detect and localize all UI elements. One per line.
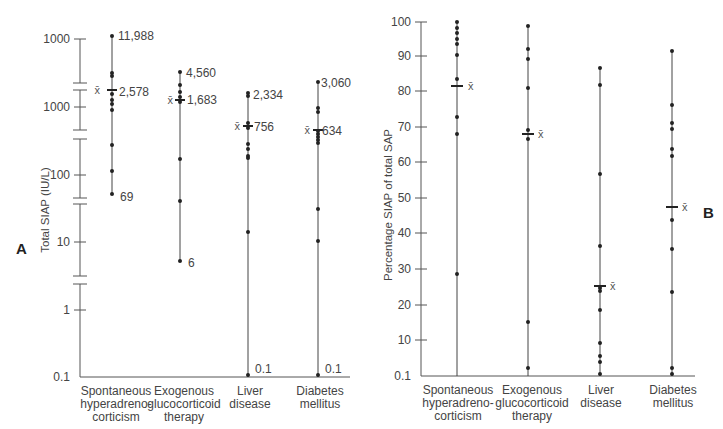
x-category-label: glucocorticoid — [495, 396, 568, 410]
panel-b-series-exogenous: x̄ — [522, 24, 544, 376]
x-category-label: therapy — [512, 409, 552, 423]
x-category-label: Diabetes — [296, 384, 343, 398]
min-label: 0.1 — [255, 362, 272, 376]
y-tick-label: 20 — [398, 298, 412, 312]
mean-symbol: x̄ — [305, 124, 311, 136]
y-tick-label: 50 — [398, 191, 412, 205]
x-category-label: therapy — [164, 410, 204, 424]
x-category-label: glucocorticoid — [147, 397, 220, 411]
y-tick-label: 0.1 — [53, 370, 70, 384]
panel-b-series-liver: x̄ — [594, 66, 616, 376]
panel-b-series-spontaneous: x̄ — [451, 20, 474, 376]
x-category-label: hyperadreno- — [422, 396, 493, 410]
panel-a-x-category-labels: Spontaneous hyperadreno- corticism Exoge… — [80, 384, 343, 424]
mean-symbol: x̄ — [235, 120, 241, 132]
y-tick-label: 60 — [398, 155, 412, 169]
mean-symbol: x̄ — [610, 280, 616, 292]
x-category-label: Spontaneous — [423, 383, 494, 397]
panel-a: A Total SIAP (IU/L) — [16, 29, 351, 424]
y-tick-label: 10 — [57, 235, 71, 249]
mean-symbol: x̄ — [168, 94, 174, 106]
max-label: 11,988 — [118, 29, 154, 43]
mean-symbol: x̄ — [95, 84, 101, 96]
x-category-label: mellitus — [300, 397, 341, 411]
mean-value-label: 2,578 — [119, 85, 149, 99]
min-label: 0.1 — [325, 362, 342, 376]
y-tick-label: 0.1 — [394, 369, 411, 383]
panel-a-series-liver: x̄ 2,334 756 0.1 — [235, 88, 284, 377]
x-category-label: Liver — [237, 384, 263, 398]
y-tick-label: 1 — [63, 303, 70, 317]
y-tick-label: 80 — [398, 84, 412, 98]
min-label: 6 — [188, 256, 195, 270]
y-tick-label: 90 — [398, 49, 412, 63]
y-tick-label: 10 — [398, 333, 412, 347]
x-category-label: Exogenous — [154, 384, 214, 398]
figure: A Total SIAP (IU/L) — [0, 0, 723, 429]
y-tick-label: 40 — [398, 226, 412, 240]
mean-symbol: x̄ — [682, 201, 688, 213]
mean-value-label: 1,683 — [187, 93, 217, 107]
x-category-label: Diabetes — [649, 383, 696, 397]
panel-b-x-category-labels: Spontaneous hyperadreno- corticism Exoge… — [422, 383, 696, 423]
panel-a-series-diabetes: x̄ 3,060 634 0.1 — [305, 76, 352, 377]
x-category-label: hyperadreno- — [80, 397, 151, 411]
panel-b-letter: B — [703, 204, 714, 221]
max-label: 2,334 — [253, 88, 283, 102]
x-category-label: Liver — [588, 383, 614, 397]
mean-symbol: x̄ — [538, 128, 544, 140]
max-label: 4,560 — [186, 66, 216, 80]
panel-a-series-spontaneous: x̄ 11,988 2,578 69 — [95, 29, 155, 204]
panel-a-series-exogenous: x̄ 4,560 1,683 6 — [168, 66, 218, 270]
panel-b: B Percentage SIAP of total SAP 100 90 80… — [382, 15, 714, 423]
y-tick-label: 100 — [50, 168, 70, 182]
panel-b-y-axis-title: Percentage SIAP of total SAP — [382, 129, 394, 281]
mean-value-label: 756 — [254, 120, 274, 134]
x-category-label: corticism — [92, 410, 139, 424]
y-tick-label: 1000 — [43, 32, 70, 46]
x-category-label: mellitus — [653, 396, 694, 410]
y-tick-label: 100 — [391, 15, 411, 29]
panel-b-y-tick-labels: 100 90 80 70 60 50 40 30 20 10 0.1 — [391, 15, 411, 383]
y-tick-label: 30 — [398, 262, 412, 276]
x-category-label: corticism — [434, 409, 481, 423]
x-category-label: disease — [229, 397, 271, 411]
mean-value-label: 634 — [322, 124, 342, 138]
x-category-label: Exogenous — [502, 383, 562, 397]
x-category-label: disease — [580, 396, 622, 410]
y-tick-label: 1000 — [43, 100, 70, 114]
panel-a-letter: A — [16, 240, 27, 257]
panel-b-series-diabetes: x̄ — [666, 49, 688, 376]
mean-symbol: x̄ — [468, 80, 474, 92]
max-label: 3,060 — [321, 76, 351, 90]
y-tick-label: 70 — [398, 120, 412, 134]
x-category-label: Spontaneous — [81, 384, 152, 398]
min-label: 69 — [120, 190, 134, 204]
